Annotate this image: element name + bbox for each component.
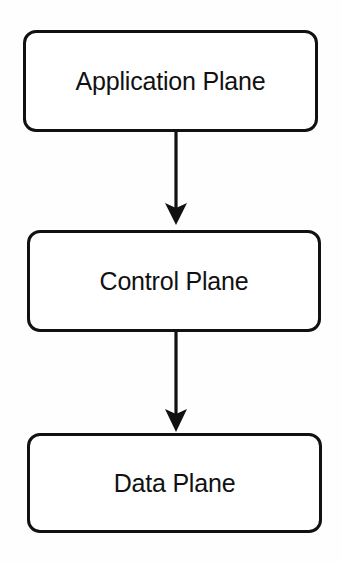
connector-application-to-control (152, 130, 200, 228)
node-data-plane[interactable]: Data Plane (27, 433, 322, 533)
connector-control-to-data (152, 330, 200, 435)
node-application-plane[interactable]: Application Plane (23, 30, 318, 132)
node-application-plane-label: Application Plane (76, 69, 266, 94)
node-control-plane[interactable]: Control Plane (27, 230, 321, 332)
node-control-plane-label: Control Plane (100, 269, 249, 294)
diagram-canvas: Application Plane Control Plane Data Pla… (0, 0, 341, 563)
node-data-plane-label: Data Plane (114, 471, 236, 496)
